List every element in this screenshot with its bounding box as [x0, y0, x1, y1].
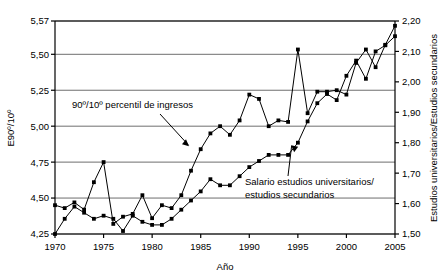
y-axis-left-title: E90º/10º	[5, 109, 16, 147]
data-point-marker	[393, 24, 397, 28]
data-point-marker	[345, 93, 349, 97]
y-tick-label-left: 5,00	[31, 121, 50, 132]
data-point-marker	[238, 119, 242, 123]
data-point-marker	[63, 206, 67, 210]
data-point-marker	[73, 205, 77, 209]
annotation-label-percentile: 90º/10º percentil de ingresos	[72, 99, 193, 110]
data-point-marker	[209, 177, 213, 181]
data-point-marker	[179, 208, 183, 212]
x-tick-label: 2000	[336, 241, 357, 252]
data-point-marker	[189, 169, 193, 173]
x-tick-label: 2005	[384, 241, 405, 252]
data-point-marker	[393, 34, 397, 38]
y-tick-label-left: 4,75	[31, 157, 50, 168]
y-tick-label-right: 2,00	[402, 76, 421, 87]
x-tick-label: 1975	[93, 241, 114, 252]
y-tick-label-right: 2,20	[402, 15, 421, 26]
data-point-marker	[345, 74, 349, 78]
data-point-marker	[218, 124, 222, 128]
annotation-arrowhead	[182, 139, 189, 146]
chart-canvas: 4,254,504,755,005,255,505,571,501,601,70…	[0, 0, 447, 275]
axis-title-group: E90º/10º Estudios universitarios/Estudio…	[5, 34, 439, 272]
data-point-marker	[170, 217, 174, 221]
data-point-marker	[325, 92, 329, 96]
data-point-marker	[335, 88, 339, 92]
data-point-marker	[247, 165, 251, 169]
annotation-leader-line	[288, 146, 292, 176]
data-point-marker	[209, 132, 213, 136]
data-point-marker	[277, 119, 281, 123]
y-tick-label-left: 5,25	[31, 85, 50, 96]
data-point-marker	[150, 223, 154, 227]
data-point-marker	[228, 183, 232, 187]
data-series-2	[53, 34, 397, 236]
data-point-marker	[374, 50, 378, 54]
data-point-marker	[82, 211, 86, 215]
data-point-marker	[296, 48, 300, 52]
data-series-group	[53, 24, 397, 236]
axis-tick-labels: 4,254,504,755,005,255,505,571,501,601,70…	[31, 15, 421, 252]
y-tick-label-right: 1,70	[402, 168, 421, 179]
data-point-marker	[73, 201, 77, 205]
data-point-marker	[267, 124, 271, 128]
data-point-marker	[131, 214, 135, 218]
data-point-marker	[286, 120, 290, 124]
data-point-marker	[53, 203, 57, 207]
data-point-marker	[141, 193, 145, 197]
x-axis-title: Año	[217, 261, 234, 272]
data-point-marker	[53, 232, 57, 236]
data-point-marker	[92, 217, 96, 221]
data-point-marker	[170, 206, 174, 210]
y-tick-label-left: 5,57	[31, 15, 50, 26]
data-point-marker	[141, 220, 145, 224]
annotation-label-salario-line1: Salario estudios universitarios/	[245, 176, 374, 187]
data-point-marker	[296, 141, 300, 145]
y-tick-label-left: 4,25	[31, 228, 50, 239]
data-point-marker	[199, 190, 203, 194]
data-point-marker	[354, 59, 358, 63]
annotation-arrowhead	[291, 145, 298, 152]
data-point-marker	[218, 183, 222, 187]
data-point-marker	[286, 153, 290, 157]
y-axis-right-title: Estudios universitarios/Estudios secunda…	[428, 34, 439, 222]
annotation-label-salario-line2: estudios secundarios	[245, 189, 334, 200]
data-point-marker	[111, 222, 115, 226]
data-point-marker	[150, 216, 154, 220]
annotation-leader-line	[160, 114, 189, 145]
data-point-marker	[160, 223, 164, 227]
data-point-marker	[306, 111, 310, 115]
y-tick-label-left: 5,50	[31, 49, 50, 60]
axis-ticks	[51, 21, 399, 238]
series-line	[55, 26, 395, 224]
x-tick-label: 1990	[239, 241, 260, 252]
y-tick-label-left: 4,50	[31, 192, 50, 203]
data-point-marker	[364, 48, 368, 52]
data-point-marker	[238, 174, 242, 178]
data-point-marker	[111, 217, 115, 221]
axis-frame	[55, 21, 395, 234]
x-tick-label: 1980	[142, 241, 163, 252]
data-point-marker	[374, 65, 378, 69]
data-point-marker	[160, 203, 164, 207]
data-point-marker	[121, 215, 125, 219]
gridlines	[55, 21, 395, 234]
data-point-marker	[383, 43, 387, 47]
data-point-marker	[315, 90, 319, 94]
data-point-marker	[335, 98, 339, 102]
y-tick-label-right: 1,50	[402, 228, 421, 239]
x-tick-label: 1985	[190, 241, 211, 252]
y-tick-label-right: 1,90	[402, 107, 421, 118]
data-point-marker	[306, 120, 310, 124]
data-point-marker	[63, 217, 67, 221]
data-point-marker	[92, 180, 96, 184]
data-point-marker	[257, 97, 261, 101]
data-point-marker	[315, 101, 319, 105]
data-point-marker	[102, 160, 106, 164]
y-tick-label-right: 1,80	[402, 137, 421, 148]
y-tick-label-right: 1,60	[402, 198, 421, 209]
data-point-marker	[199, 147, 203, 151]
data-point-marker	[247, 93, 251, 97]
data-point-marker	[121, 229, 125, 233]
data-point-marker	[189, 199, 193, 203]
data-point-marker	[102, 214, 106, 218]
